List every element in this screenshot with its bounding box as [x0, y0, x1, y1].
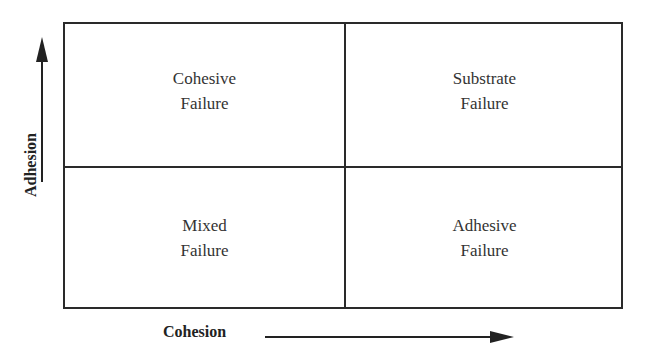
quadrant-label-line2: Failure — [180, 91, 228, 116]
quadrant-label-line1: Substrate — [453, 66, 516, 91]
quadrant-substrate-failure: Substrate Failure — [345, 24, 624, 166]
quadrant-label-line1: Mixed — [182, 213, 226, 238]
y-axis-arrow-head-icon — [36, 37, 48, 62]
y-axis-label: Adhesion — [22, 125, 40, 205]
quadrant-grid: Cohesive Failure Substrate Failure Mixed… — [63, 22, 623, 309]
quadrant-label-line2: Failure — [460, 238, 508, 263]
quadrant-cohesive-failure: Cohesive Failure — [65, 24, 344, 166]
x-axis-arrow-head-icon — [490, 331, 514, 343]
quadrant-label-line2: Failure — [180, 238, 228, 263]
x-axis-label: Cohesion — [163, 323, 226, 341]
quadrant-label-line2: Failure — [460, 91, 508, 116]
quadrant-label-line1: Adhesive — [452, 213, 516, 238]
quadrant-label-line1: Cohesive — [173, 66, 236, 91]
quadrant-mixed-failure: Mixed Failure — [65, 167, 344, 309]
quadrant-adhesive-failure: Adhesive Failure — [345, 167, 624, 309]
